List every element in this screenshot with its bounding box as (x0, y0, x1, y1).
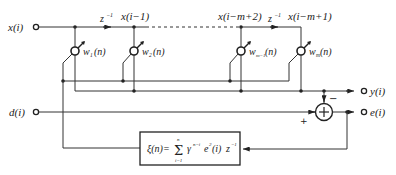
delay-2: z −1 (267, 12, 281, 24)
tap-label-x-i-m-2: x(i−m+2) (217, 10, 262, 23)
input-d-terminal (33, 109, 38, 114)
input-x-terminal (33, 24, 38, 29)
svg-text:2: 2 (149, 52, 152, 58)
output-y-terminal (361, 88, 366, 93)
svg-text:w: w (142, 46, 149, 57)
svg-text:w: w (309, 46, 316, 57)
weight-w1: w 1 (n) (63, 41, 106, 81)
svg-text:−1: −1 (274, 12, 281, 18)
svg-text:w: w (249, 46, 256, 57)
cost-function-block: ξ(n)= Σ n i=1 γ n−i e 2 (i) z −1 (140, 132, 240, 165)
input-x-label: x(i) (7, 21, 24, 34)
svg-text:−1: −1 (231, 142, 237, 147)
delay-1: z −1 (99, 12, 113, 24)
svg-text:ξ(n)=: ξ(n)= (147, 143, 170, 155)
weight-w-m-1: w m−1 (n) (230, 41, 277, 81)
svg-text:(n): (n) (320, 46, 332, 58)
svg-text:(n): (n) (94, 46, 106, 58)
output-bus (75, 89, 354, 93)
output-e-label: e(i) (370, 106, 386, 119)
svg-text:−1: −1 (106, 12, 113, 18)
tap-label-x-i-1: x(i−1) (120, 10, 150, 23)
minus-sign: − (329, 93, 337, 104)
summing-junction (316, 104, 333, 121)
svg-text:n−i: n−i (193, 142, 201, 147)
svg-text:z: z (225, 143, 230, 154)
svg-text:w: w (83, 46, 90, 57)
svg-text:i=1: i=1 (175, 158, 182, 163)
svg-text:z: z (99, 13, 104, 24)
weight-w2: w 2 (n) (123, 41, 165, 81)
adaptive-filter-diagram: x(i) z −1 z −1 x(i−1) x(i−m+2) x(i−m+1) … (0, 0, 396, 175)
svg-text:(n): (n) (153, 46, 165, 58)
output-y-label: y(i) (369, 85, 386, 98)
svg-text:(n): (n) (265, 46, 277, 58)
weight-wm: w m (n) (289, 41, 332, 81)
tap-label-x-i-m-1: x(i−m+1) (287, 10, 332, 23)
svg-text:(i): (i) (212, 143, 222, 155)
plus-sign: + (300, 116, 308, 126)
svg-text:Σ: Σ (174, 143, 183, 158)
svg-text:z: z (267, 13, 272, 24)
svg-text:1: 1 (90, 52, 93, 58)
input-d-label: d(i) (9, 106, 25, 119)
output-e-terminal (361, 109, 366, 114)
